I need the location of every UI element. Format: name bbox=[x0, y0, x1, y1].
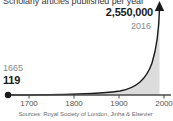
chart-container: Scholarly articles published per year 2,… bbox=[0, 0, 173, 121]
source-attribution: Sources: Royal Society of London, Jinha … bbox=[0, 111, 171, 117]
x-axis-tick-label-2000: 2000 bbox=[155, 99, 172, 108]
x-axis-tick-label-1900: 1900 bbox=[110, 99, 127, 108]
x-axis-tick-label-1700: 1700 bbox=[20, 99, 37, 108]
x-axis-tick-label-1800: 1800 bbox=[65, 99, 82, 108]
up-arrow-marker bbox=[155, 1, 164, 11]
end-value-label: 2,550,000 bbox=[106, 6, 153, 18]
start-year-label: 1665 bbox=[3, 63, 23, 74]
start-value-annotation: 1665 119 bbox=[3, 63, 23, 86]
start-point-dot bbox=[5, 92, 11, 98]
end-value-annotation: 2,550,000 2016 bbox=[106, 6, 153, 32]
end-year-label: 2016 bbox=[106, 20, 151, 32]
start-value-label: 119 bbox=[3, 74, 23, 86]
